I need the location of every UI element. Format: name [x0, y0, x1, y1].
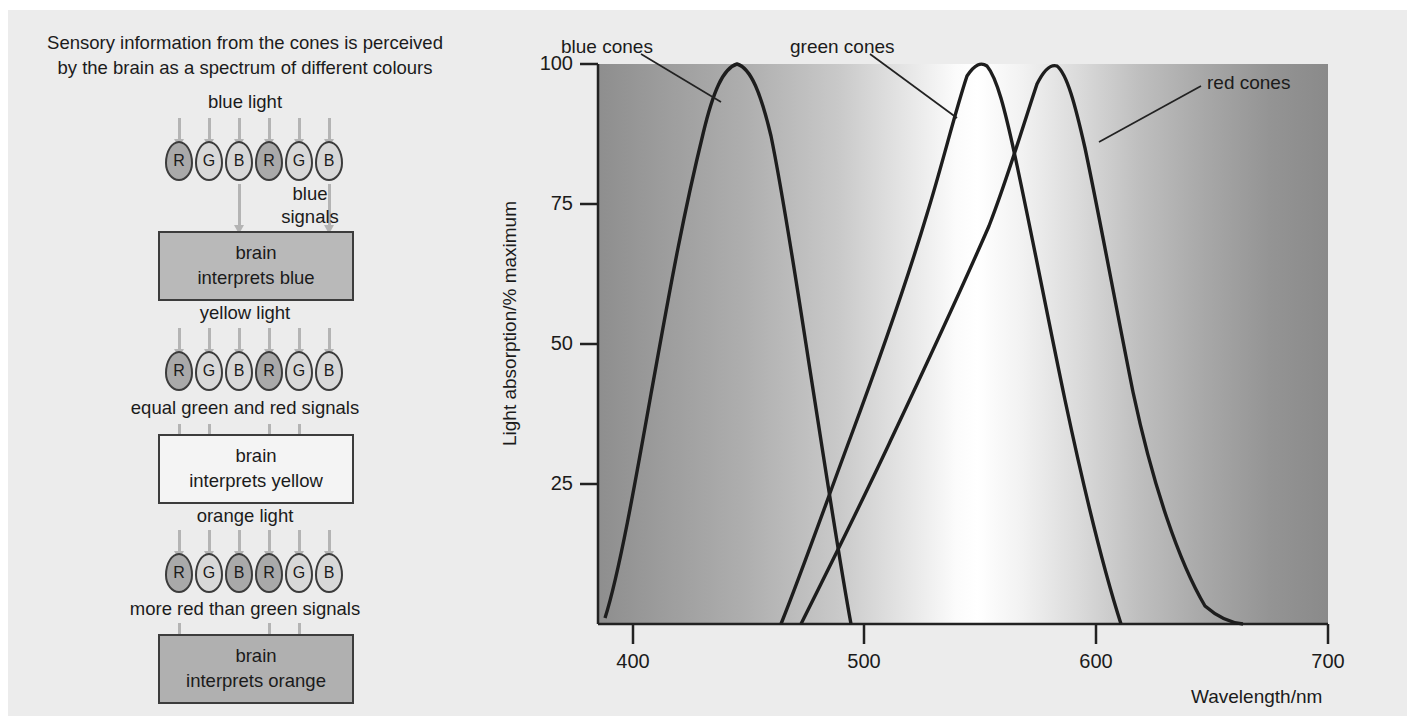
cone-g-1: G — [195, 141, 223, 181]
light-label-blue: blue light — [10, 90, 480, 113]
signal-label-blue-line1: blue — [255, 182, 365, 205]
curve-label-green-cones: green cones — [790, 36, 895, 58]
leader-blue-cones — [641, 54, 721, 102]
brain-box-orange: brain interprets orange — [158, 634, 354, 704]
cone-r-2: R — [255, 141, 283, 181]
cone-row-blue-light: R G B R G B — [165, 141, 345, 183]
figure-root: Sensory information from the cones is pe… — [0, 0, 1415, 728]
cone-row-yellow-light: R G B R G B — [165, 351, 345, 393]
cone-g-1: G — [195, 553, 223, 593]
signal-label-orange: more red than green signals — [10, 597, 480, 620]
curve-label-leaders — [485, 14, 1410, 714]
cone-r-2: R — [255, 553, 283, 593]
cone-b-1: B — [225, 351, 253, 391]
leader-green-cones — [870, 54, 957, 118]
signal-label-blue-line2: signals — [255, 205, 365, 228]
x-axis-title: Wavelength/nm — [1191, 686, 1322, 708]
cone-b-1: B — [225, 141, 253, 181]
light-label-orange: orange light — [10, 504, 480, 527]
y-tick-25: 25 — [505, 472, 573, 495]
cone-b-2: B — [315, 351, 343, 391]
brain-box-orange-line2: interprets orange — [160, 668, 352, 693]
cone-g-1: G — [195, 351, 223, 391]
brain-box-yellow-line1: brain — [160, 443, 352, 468]
brain-box-blue-line1: brain — [160, 240, 352, 265]
brain-box-yellow-line2: interprets yellow — [160, 468, 352, 493]
cone-row-orange-light: R G B R G B — [165, 553, 345, 595]
signal-label-yellow: equal green and red signals — [10, 396, 480, 419]
x-tick-600: 600 — [1056, 650, 1136, 673]
absorption-spectrum-chart: 100 75 50 25 400 500 600 700 Light absor… — [485, 14, 1410, 714]
cone-b-2: B — [315, 141, 343, 181]
light-label-yellow: yellow light — [10, 301, 480, 324]
cone-r-1: R — [165, 351, 193, 391]
panel-caption-line-2: by the brain as a spectrum of different … — [10, 55, 480, 80]
cone-signal-panel: Sensory information from the cones is pe… — [10, 14, 480, 704]
brain-box-yellow: brain interprets yellow — [158, 434, 354, 504]
brain-box-orange-line1: brain — [160, 643, 352, 668]
x-tick-500: 500 — [824, 650, 904, 673]
cone-r-2: R — [255, 351, 283, 391]
cone-g-2: G — [285, 141, 313, 181]
cone-r-1: R — [165, 141, 193, 181]
cone-g-2: G — [285, 553, 313, 593]
curve-label-blue-cones: blue cones — [561, 36, 653, 58]
leader-red-cones — [1099, 86, 1201, 142]
cone-g-2: G — [285, 351, 313, 391]
cone-r-1: R — [165, 553, 193, 593]
panel-caption-line-1: Sensory information from the cones is pe… — [10, 30, 480, 55]
x-tick-700: 700 — [1288, 650, 1368, 673]
brain-box-blue-line2: interprets blue — [160, 265, 352, 290]
cone-b-1: B — [225, 553, 253, 593]
x-tick-400: 400 — [593, 650, 673, 673]
cone-b-2: B — [315, 553, 343, 593]
curve-label-red-cones: red cones — [1207, 72, 1290, 94]
brain-box-blue: brain interprets blue — [158, 231, 354, 301]
y-axis-title: Light absorption/% maximum — [499, 201, 521, 446]
